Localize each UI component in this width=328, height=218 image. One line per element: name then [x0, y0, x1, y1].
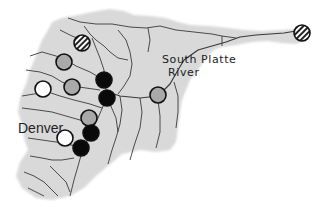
- site-marker-hatched: [294, 25, 310, 41]
- site-marker-black: [83, 125, 99, 141]
- river-label-line1: South Platte: [162, 53, 237, 66]
- site-marker-black: [99, 90, 115, 106]
- site-marker-gray: [56, 54, 72, 70]
- site-marker-gray: [150, 87, 166, 103]
- site-marker-gray: [64, 79, 80, 95]
- river-label: South Platte River: [162, 53, 237, 79]
- site-marker-white: [35, 81, 51, 97]
- river-label-line2: River: [162, 66, 237, 79]
- site-marker-gray: [81, 110, 97, 126]
- basin-map: [0, 0, 328, 218]
- river-basin-area: [16, 9, 308, 200]
- site-marker-black: [73, 140, 89, 156]
- site-marker-black: [96, 72, 112, 88]
- site-marker-hatched: [74, 35, 90, 51]
- city-label-denver: Denver: [18, 120, 63, 136]
